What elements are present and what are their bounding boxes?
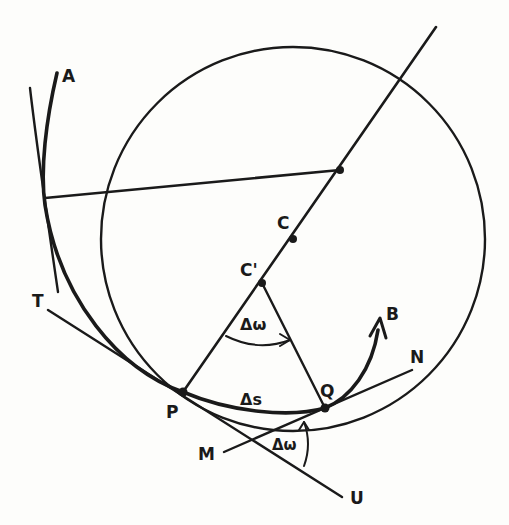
tangent-TU [48, 310, 342, 497]
point-P [179, 388, 188, 397]
label-P: P [166, 402, 178, 422]
angle-arrow-bottom-icon [299, 422, 309, 430]
point-Q [321, 404, 330, 413]
label-C-prime: C' [240, 260, 258, 280]
label-A: A [62, 66, 76, 86]
label-C: C [277, 213, 289, 233]
angle-arc-top [226, 336, 290, 345]
point-C-prime [258, 279, 266, 287]
label-U: U [350, 488, 364, 508]
point-chord [336, 166, 344, 174]
curvature-diagram: A T C C' Δω Δs P Q B N M Δω U [0, 0, 509, 525]
point-C [289, 235, 297, 243]
curve-A [43, 73, 378, 413]
label-N: N [410, 347, 424, 367]
chord-line [45, 170, 340, 198]
diagram-canvas: A T C C' Δω Δs P Q B N M Δω U [0, 0, 509, 525]
label-delta-omega-bottom: Δω [272, 436, 297, 454]
label-delta-omega-top: Δω [240, 315, 266, 334]
label-Q: Q [320, 381, 334, 401]
normal-line [183, 27, 436, 392]
label-T: T [32, 291, 44, 311]
label-delta-s: Δs [240, 390, 262, 409]
label-M: M [198, 444, 215, 464]
label-B: B [386, 304, 399, 324]
